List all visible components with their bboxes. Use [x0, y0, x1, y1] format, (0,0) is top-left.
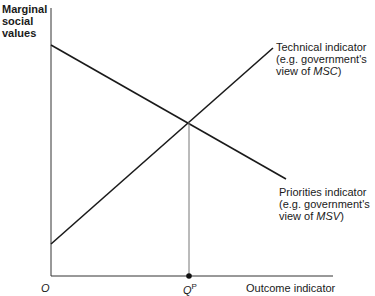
- label-line: (e.g. government's: [279, 198, 370, 210]
- label-text: view of: [279, 210, 316, 222]
- equilibrium-quantity-label: QP: [183, 281, 197, 296]
- label-line: Technical indicator: [276, 41, 367, 53]
- label-text: MSV: [316, 210, 340, 222]
- label-line: view of MSV): [279, 210, 370, 222]
- label-text: view of: [276, 65, 313, 77]
- technical-indicator-line: [51, 48, 273, 244]
- y-axis-label-line: social: [2, 15, 47, 27]
- label-line: view of MSC): [276, 65, 367, 77]
- label-text: MSC: [313, 65, 337, 77]
- technical-indicator-label: Technical indicator (e.g. government's v…: [276, 41, 367, 77]
- label-text: ): [340, 210, 344, 222]
- priorities-indicator-line: [51, 45, 286, 179]
- label-line: (e.g. government's: [276, 53, 367, 65]
- y-axis-label-line: values: [2, 27, 47, 39]
- y-axis-label-line: Marginal: [2, 3, 47, 15]
- priorities-indicator-label: Priorities indicator (e.g. government's …: [279, 186, 370, 222]
- label-superscript: P: [192, 282, 197, 291]
- label-text: Q: [183, 284, 192, 296]
- origin-label: O: [41, 282, 50, 294]
- x-axis-label: Outcome indicator: [246, 282, 335, 294]
- label-text: ): [338, 65, 342, 77]
- label-line: Priorities indicator: [279, 186, 370, 198]
- equilibrium-point-marker: [186, 273, 192, 279]
- y-axis-label: Marginal social values: [2, 3, 47, 39]
